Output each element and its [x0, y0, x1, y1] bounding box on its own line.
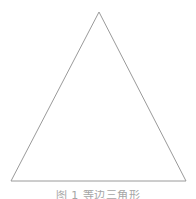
figure-container: 图 1 等边三角形	[0, 0, 196, 199]
triangle-figure-canvas	[0, 0, 196, 199]
triangle-shape	[11, 12, 186, 181]
